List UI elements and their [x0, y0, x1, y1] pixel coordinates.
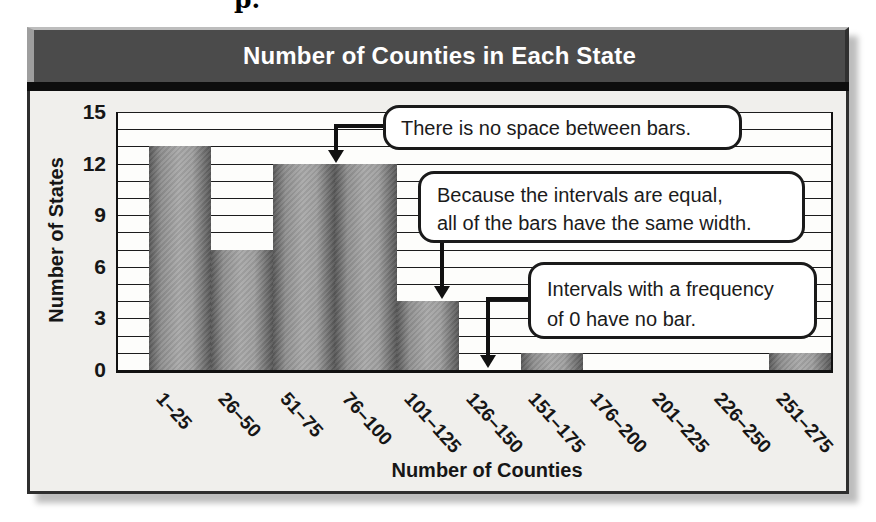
y-tick-label-3: 3 [60, 306, 106, 330]
y-tick-label-6: 6 [60, 255, 106, 279]
bar-26-50 [211, 250, 273, 370]
x-axis-title: Number of Counties [391, 459, 582, 482]
connector-zero-freq-horizontal [488, 297, 530, 301]
callout-zero-freq-line1: Intervals with a frequency [547, 274, 814, 304]
page: p. Number of Counties in Each State Numb… [0, 0, 876, 522]
callout-no-space: There is no space between bars. [383, 105, 742, 150]
title-bar-shadow [27, 82, 849, 91]
page-crop-artifact: p. [234, 0, 260, 14]
connector-no-space-vertical [334, 124, 338, 151]
bar-151-175 [521, 353, 583, 370]
connector-zero-freq-vertical [486, 297, 490, 356]
bar-1-25 [149, 146, 211, 370]
connector-equal-width-vertical [440, 240, 444, 287]
callout-zero-freq-line2: of 0 have no bar. [547, 304, 814, 334]
chart-title-bar: Number of Counties in Each State [27, 27, 849, 82]
y-tick-label-0: 0 [60, 358, 106, 382]
y-tick-label-9: 9 [60, 203, 106, 227]
gridline-12 [118, 164, 831, 165]
bar-101-125 [397, 301, 459, 370]
bar-76-100 [335, 164, 397, 370]
callout-no-space-text: There is no space between bars. [401, 114, 691, 142]
arrowhead-down-icon [434, 286, 450, 299]
bar-251-275 [769, 353, 831, 370]
connector-no-space-horizontal [336, 124, 386, 128]
callout-zero-freq: Intervals with a frequency of 0 have no … [528, 262, 817, 339]
callout-equal-width: Because the intervals are equal, all of … [418, 171, 805, 243]
callout-equal-width-line1: Because the intervals are equal, [437, 181, 802, 209]
chart-title: Number of Counties in Each State [243, 42, 636, 70]
y-tick-label-12: 12 [60, 152, 106, 176]
y-tick-label-15: 15 [60, 100, 106, 124]
y-axis-title: Number of States [45, 157, 68, 323]
arrowhead-down-icon [480, 355, 496, 368]
callout-equal-width-line2: all of the bars have the same width. [437, 209, 802, 237]
bar-51-75 [273, 164, 335, 370]
arrowhead-down-icon [328, 150, 344, 163]
